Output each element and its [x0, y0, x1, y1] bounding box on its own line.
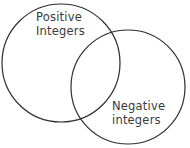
negative-integers-label: Negative integers — [112, 99, 165, 127]
positive-integers-label: Positive Integers — [36, 10, 85, 38]
negative-label-line1: Negative — [112, 99, 165, 113]
positive-label-line2: Integers — [36, 24, 85, 38]
negative-label-line2: integers — [112, 113, 165, 127]
positive-label-line1: Positive — [36, 10, 85, 24]
